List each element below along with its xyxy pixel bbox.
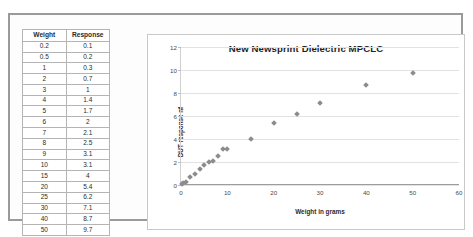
cell-response: 6.2 xyxy=(66,192,110,203)
cell-response: 5.4 xyxy=(66,181,110,192)
table-row: 10.3 xyxy=(23,63,110,74)
data-point xyxy=(248,136,254,142)
x-tick-label: 50 xyxy=(409,189,416,196)
cell-weight: 50 xyxy=(23,225,67,236)
cell-response: 0.3 xyxy=(66,63,110,74)
data-point xyxy=(224,147,230,153)
y-tick-mark xyxy=(178,162,181,163)
x-tick-label: 40 xyxy=(363,189,370,196)
table-row: 408.7 xyxy=(23,214,110,225)
y-tick-label: 4 xyxy=(174,136,177,143)
table-row: 93.1 xyxy=(23,149,110,160)
data-point xyxy=(197,166,203,172)
cell-weight: 6 xyxy=(23,117,67,128)
cell-weight: 8 xyxy=(23,138,67,149)
cell-response: 2 xyxy=(66,117,110,128)
table-row: 205.4 xyxy=(23,181,110,192)
cell-weight: 10 xyxy=(23,160,67,171)
cell-response: 0.2 xyxy=(66,52,110,63)
x-tick-label: 0 xyxy=(179,189,182,196)
cell-weight: 9 xyxy=(23,149,67,160)
y-gridline xyxy=(181,47,459,48)
table-row: 72.1 xyxy=(23,128,110,139)
cell-response: 1 xyxy=(66,84,110,95)
cell-weight: 25 xyxy=(23,192,67,203)
data-point xyxy=(271,120,277,126)
table-row: 0.50.2 xyxy=(23,52,110,63)
cell-weight: 3 xyxy=(23,84,67,95)
cell-response: 2.5 xyxy=(66,138,110,149)
cell-response: 1.4 xyxy=(66,95,110,106)
column-header-response: Response xyxy=(66,30,110,42)
y-gridline xyxy=(181,185,459,186)
cell-weight: 1 xyxy=(23,63,67,74)
cell-weight: 4 xyxy=(23,95,67,106)
y-tick-label: 10 xyxy=(170,67,177,74)
data-point xyxy=(215,153,221,159)
table-row: 20.7 xyxy=(23,74,110,85)
cell-weight: 30 xyxy=(23,203,67,214)
x-tick-label: 30 xyxy=(317,189,324,196)
cell-weight: 7 xyxy=(23,128,67,139)
data-point xyxy=(192,171,198,177)
column-header-weight: Weight xyxy=(23,30,67,42)
cell-weight: 0.2 xyxy=(23,41,67,52)
y-gridline xyxy=(181,70,459,71)
cell-response: 0.1 xyxy=(66,41,110,52)
y-gridline xyxy=(181,162,459,163)
cell-response: 3.1 xyxy=(66,160,110,171)
cell-response: 9.7 xyxy=(66,225,110,236)
plot-area: 0246810120102030405060 xyxy=(181,47,459,185)
document-sheet: Weight Response 0.20.10.50.210.320.73141… xyxy=(8,13,463,221)
x-tick-label: 20 xyxy=(270,189,277,196)
table-row: 41.4 xyxy=(23,95,110,106)
cell-response: 1.7 xyxy=(66,106,110,117)
data-point xyxy=(317,101,323,107)
cell-response: 3.1 xyxy=(66,149,110,160)
y-tick-label: 8 xyxy=(174,90,177,97)
table-row: 51.7 xyxy=(23,106,110,117)
data-point xyxy=(363,82,369,88)
table-row: 509.7 xyxy=(23,225,110,236)
table-row: 31 xyxy=(23,84,110,95)
cell-response: 4 xyxy=(66,171,110,182)
table-row: 103.1 xyxy=(23,160,110,171)
cell-weight: 2 xyxy=(23,74,67,85)
data-table-header: Weight Response xyxy=(23,30,110,42)
y-gridline xyxy=(181,93,459,94)
data-table-body: 0.20.10.50.210.320.73141.451.76272.182.5… xyxy=(23,41,110,235)
cell-weight: 15 xyxy=(23,171,67,182)
table-row: 0.20.1 xyxy=(23,41,110,52)
chart-container: New Newsprint Dielectric MPCLC DUT respo… xyxy=(147,34,465,230)
y-gridline xyxy=(181,116,459,117)
data-table-container: Weight Response 0.20.10.50.210.320.73141… xyxy=(22,29,110,236)
x-tick-label: 60 xyxy=(456,189,463,196)
y-gridline xyxy=(181,139,459,140)
y-tick-mark xyxy=(178,93,181,94)
cell-weight: 20 xyxy=(23,181,67,192)
data-table: Weight Response 0.20.10.50.210.320.73141… xyxy=(22,29,110,236)
table-row: 62 xyxy=(23,117,110,128)
table-row: 82.5 xyxy=(23,138,110,149)
cell-response: 7.1 xyxy=(66,203,110,214)
cell-weight: 5 xyxy=(23,106,67,117)
y-tick-label: 0 xyxy=(174,182,177,189)
table-row: 256.2 xyxy=(23,192,110,203)
cell-weight: 40 xyxy=(23,214,67,225)
cell-weight: 0.5 xyxy=(23,52,67,63)
y-tick-label: 2 xyxy=(174,159,177,166)
cell-response: 8.7 xyxy=(66,214,110,225)
y-tick-mark xyxy=(178,70,181,71)
y-tick-label: 6 xyxy=(174,113,177,120)
data-point xyxy=(410,71,416,77)
cell-response: 2.1 xyxy=(66,128,110,139)
table-row: 307.1 xyxy=(23,203,110,214)
x-tick-label: 10 xyxy=(224,189,231,196)
y-tick-mark xyxy=(178,139,181,140)
y-tick-label: 12 xyxy=(170,44,177,51)
x-axis-title: Weight in grams xyxy=(181,208,459,215)
y-tick-mark xyxy=(178,47,181,48)
y-tick-mark xyxy=(178,116,181,117)
table-row: 154 xyxy=(23,171,110,182)
table-header-row: Weight Response xyxy=(23,30,110,42)
